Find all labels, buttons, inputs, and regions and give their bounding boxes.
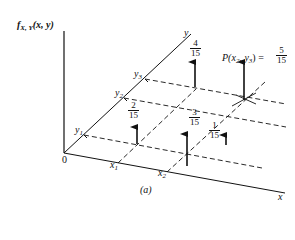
point-annotation: P(x2, y3) = [222, 53, 264, 65]
x-axis-label: x [278, 192, 282, 202]
vertical-axis-label: fX, Y(x, y) [17, 20, 54, 32]
mass-label-x1-y1: 215 [128, 101, 139, 120]
mass-label-x2-y2: 115 [209, 121, 220, 140]
x-axis [64, 153, 285, 193]
origin-label: 0 [62, 155, 67, 165]
x2-tick-label: x2 [158, 168, 166, 180]
figure-caption: (a) [140, 185, 152, 195]
y1-tick-label: y1 [75, 125, 83, 137]
y2-tick-label: y2 [115, 88, 123, 100]
y-axis-label: y [184, 28, 188, 38]
y3-tick-label: y3 [134, 69, 142, 81]
y-axis [64, 34, 191, 153]
mass-label-x2-y1: 315 [189, 108, 200, 127]
x1-tick-label: x1 [110, 160, 118, 172]
mass-label-x1-y3: 415 [190, 39, 201, 58]
mass-label-x2-y3: 515 [276, 46, 287, 65]
